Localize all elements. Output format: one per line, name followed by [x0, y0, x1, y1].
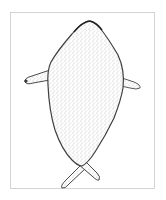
left-fin	[25, 70, 50, 84]
fish-drawing	[0, 0, 166, 200]
fish-body	[48, 21, 124, 166]
left-fin-tip	[24, 79, 27, 82]
